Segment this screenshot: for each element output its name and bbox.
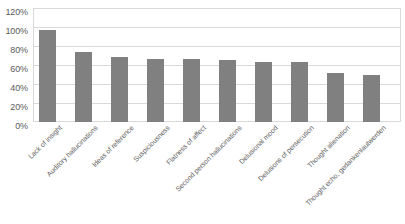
x-axis: Lack of insight Auditory hallucinations … [34,124,400,224]
y-axis: 0% 20% 40% 60% 80% 100% 120% [0,0,31,130]
y-tick-label-40: 40% [10,84,28,93]
bar-suspiciousness [147,59,164,122]
bar-lack-of-insight [39,30,56,122]
y-tick-label-60: 60% [10,65,28,74]
x-tick-label-lack-of-insight: Lack of insight [27,124,64,161]
bar-thought-echo [363,75,380,123]
y-tick-label-0: 0% [15,122,28,131]
x-tick-label-second-person-hallucinations: Second person hallucinations [174,124,243,193]
bar-chart: 0% 20% 40% 60% 80% 100% 120% Lack of ins… [0,0,405,224]
x-tick-label-thought-echo: Thought echo, gedankenlautwerden [304,124,388,208]
y-tick-label-100: 100% [5,27,28,36]
bar-flatness-of-affect [183,59,200,122]
bars-layer [34,8,400,122]
y-tick-label-20: 20% [10,103,28,112]
y-tick-label-120: 120% [5,8,28,17]
y-tick-label-80: 80% [10,46,28,55]
bar-delusions-of-persecution [291,62,308,122]
x-tick-label-suspiciousness: Suspiciousness [132,124,172,164]
bar-ideas-of-reference [111,57,128,122]
bar-second-person-hallucinations [219,60,236,122]
bar-delusional-mood [255,62,272,122]
bar-auditory-hallucinations [75,52,92,122]
bar-thought-alienation [327,73,344,122]
